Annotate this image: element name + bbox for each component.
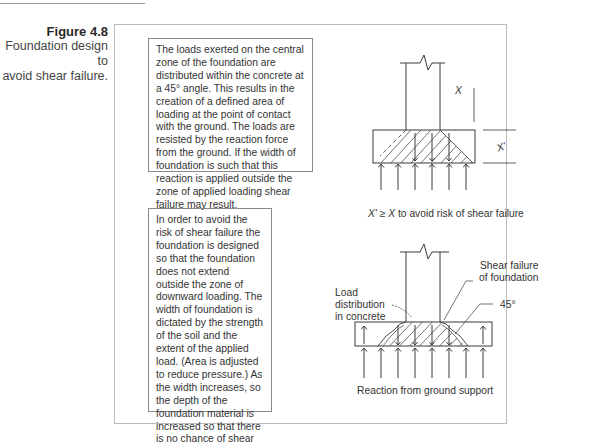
label-shear-line2: of foundation [479, 272, 539, 283]
foundation-diagrams: X X' X' ≥ X to avoid risk of shear failu… [0, 0, 594, 444]
column-break-symbol [400, 55, 445, 70]
label-shear-line1: Shear failure [480, 260, 539, 271]
diagram-shear-risk [360, 55, 516, 190]
shear-crack-left [378, 322, 406, 346]
label-load-line3: in concrete [335, 311, 386, 322]
footing [373, 130, 475, 163]
footing [355, 322, 492, 346]
label-load-line1: Load [335, 287, 358, 298]
shear-crack-right [440, 322, 468, 346]
label-load-line2: distribution [335, 299, 385, 310]
diagram2-caption: Reaction from ground support [357, 385, 493, 396]
label-x: X [454, 85, 463, 96]
caption-inequality: X' ≥ X [367, 208, 396, 219]
leader-45-degree [455, 304, 493, 334]
leader-shear-failure [444, 281, 473, 320]
diagram1-caption: X' ≥ X to avoid risk of shear failure [367, 208, 524, 219]
column-break-symbol [400, 244, 449, 259]
caption-text: to avoid risk of shear failure [395, 208, 524, 219]
label-x-prime: X' [494, 140, 508, 154]
leader-load-distribution [392, 305, 412, 318]
label-angle: 45° [500, 299, 516, 310]
